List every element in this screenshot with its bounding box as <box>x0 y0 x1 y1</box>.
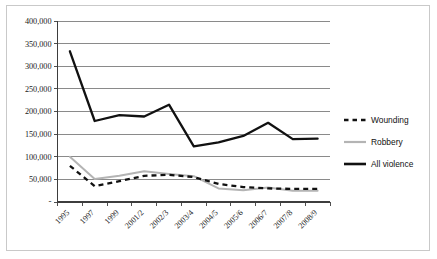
gridline-group <box>58 21 331 179</box>
y-axis-tick-label: 350,000 <box>25 40 52 49</box>
x-axis-tick-label: 2006/7 <box>247 208 269 230</box>
series-line-all-violence <box>70 51 318 146</box>
x-axis-tick-label: 2002/3 <box>148 208 170 230</box>
y-axis-tick-label: 400,000 <box>25 17 52 26</box>
legend-label-all-violence: All violence <box>371 159 414 169</box>
x-axis-tick-label: 1997 <box>78 208 96 226</box>
y-axis-tick-label: 300,000 <box>25 62 52 71</box>
plot-wrapper: -50,000100,000150,000200,000250,000300,0… <box>0 0 437 259</box>
y-axis-tick-label: 50,000 <box>29 175 52 184</box>
x-axis-tick-group: 1995199719992001/22002/32003/42004/52005… <box>53 202 330 231</box>
x-axis-tick-label: 1999 <box>103 208 121 226</box>
chart-legend: WoundingRobberyAll violence <box>344 115 414 169</box>
x-axis-tick-label: 2003/4 <box>173 208 195 230</box>
y-axis-tick-label: 100,000 <box>25 153 52 162</box>
y-axis-tick-label: 200,000 <box>25 107 52 116</box>
y-axis-tick-label: - <box>49 196 52 206</box>
series-group <box>70 51 318 190</box>
x-axis-tick-label: 2005/6 <box>222 208 244 230</box>
chart-figure: -50,000100,000150,000200,000250,000300,0… <box>0 0 437 259</box>
x-axis-tick-label: 2008/9 <box>297 208 319 230</box>
y-axis-tick-group: -50,000100,000150,000200,000250,000300,0… <box>25 17 58 206</box>
y-axis-tick-label: 250,000 <box>25 85 52 94</box>
y-axis-tick-label: 150,000 <box>25 130 52 139</box>
series-line-robbery <box>70 157 318 191</box>
x-axis-tick-label: 2004/5 <box>197 208 219 230</box>
x-axis-tick-label: 2007/8 <box>272 208 294 230</box>
legend-label-robbery: Robbery <box>371 137 403 147</box>
x-axis-tick-label: 1995 <box>53 208 71 226</box>
x-axis-tick-label: 2001/2 <box>123 208 145 230</box>
line-chart: -50,000100,000150,000200,000250,000300,0… <box>0 0 437 259</box>
legend-label-wounding: Wounding <box>371 115 409 125</box>
